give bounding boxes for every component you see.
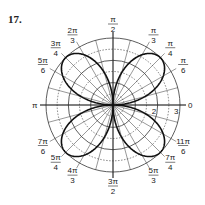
angle-label: 3π4 (51, 39, 61, 58)
angle-label: π3 (149, 26, 159, 45)
angle-label: 3π2 (108, 177, 118, 196)
svg-text:π: π (168, 39, 174, 48)
polar-graph: 230ππ2π3π4π62π33π45π67π65π44π33π25π37π41… (0, 0, 205, 205)
svg-text:6: 6 (181, 66, 186, 75)
svg-text:4: 4 (168, 49, 173, 58)
angle-label: 5π4 (51, 153, 61, 172)
svg-text:2: 2 (111, 25, 116, 34)
angle-label: 4π3 (68, 166, 78, 185)
svg-text:3: 3 (70, 36, 75, 45)
svg-text:π: π (110, 15, 116, 24)
angle-label-pi: π (32, 101, 38, 110)
radial-tick-label: 3 (174, 107, 179, 116)
svg-text:7π: 7π (165, 153, 175, 162)
svg-text:π: π (180, 56, 186, 65)
svg-text:7π: 7π (38, 137, 48, 146)
angle-label: 7π4 (165, 153, 175, 172)
svg-text:6: 6 (41, 147, 46, 156)
angle-label: π2 (108, 15, 118, 34)
svg-text:5π: 5π (149, 166, 159, 175)
angle-label: 7π6 (38, 137, 48, 156)
svg-text:3π: 3π (51, 39, 61, 48)
svg-text:6: 6 (181, 147, 186, 156)
svg-text:3: 3 (151, 36, 156, 45)
svg-text:4π: 4π (68, 166, 78, 175)
svg-text:3π: 3π (108, 177, 118, 186)
svg-text:4: 4 (53, 49, 58, 58)
radial-tick-label: 2 (152, 107, 157, 116)
svg-text:11π: 11π (176, 137, 190, 146)
angle-label: 11π6 (176, 137, 190, 156)
angle-label: 5π6 (38, 56, 48, 75)
svg-text:6: 6 (41, 66, 46, 75)
svg-text:5π: 5π (38, 56, 48, 65)
svg-text:3: 3 (70, 176, 75, 185)
angle-label: 5π3 (149, 166, 159, 185)
svg-text:4: 4 (168, 163, 173, 172)
angle-label-0: 0 (188, 101, 193, 110)
svg-text:π: π (151, 26, 157, 35)
angle-label: π6 (178, 56, 188, 75)
svg-text:5π: 5π (51, 153, 61, 162)
svg-text:2: 2 (111, 187, 116, 196)
angle-label: π4 (165, 39, 175, 58)
svg-text:2π: 2π (68, 26, 78, 35)
svg-text:4: 4 (53, 163, 58, 172)
svg-text:3: 3 (151, 176, 156, 185)
